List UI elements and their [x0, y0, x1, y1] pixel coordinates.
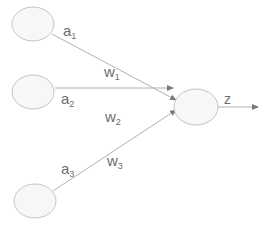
- weight-label-2: w2: [104, 108, 121, 127]
- weight-label-1: w1: [103, 63, 120, 82]
- input-label-3: a3: [61, 160, 74, 179]
- input-node-1: [12, 7, 54, 41]
- output-label: z: [224, 91, 231, 107]
- input-node-2: [12, 75, 54, 109]
- neuron-diagram: a1 a2 a3 w1 w2 w3 z: [0, 0, 267, 235]
- input-label-2: a2: [61, 90, 74, 109]
- input-label-1: a1: [63, 22, 76, 41]
- weight-label-3: w3: [106, 152, 123, 171]
- input-node-3: [14, 184, 56, 218]
- output-node: [174, 89, 218, 125]
